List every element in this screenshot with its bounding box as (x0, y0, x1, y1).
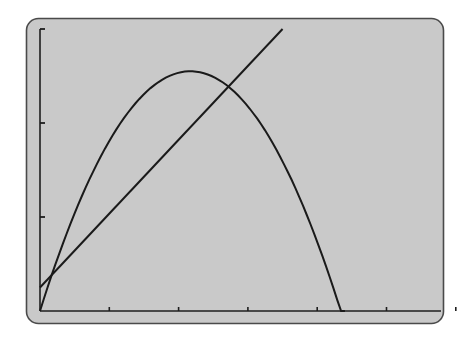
screen-frame (27, 19, 444, 324)
graphing-calculator-screen (0, 0, 464, 346)
